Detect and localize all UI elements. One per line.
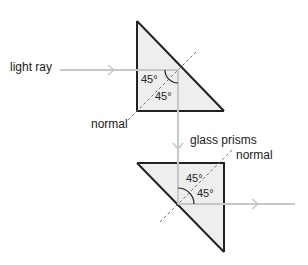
angle-label-top-reflection: 45° (155, 91, 172, 102)
normal-label-top: normal (91, 118, 128, 130)
periscope-diagram: light ray normal glass prisms normal 45°… (0, 0, 308, 265)
angle-label-bottom-incidence: 45° (186, 173, 203, 184)
glass-prism-top (137, 21, 224, 111)
normal-label-bottom: normal (236, 149, 273, 161)
glass-prism-bottom (137, 163, 224, 252)
glass-prisms-label: glass prisms (190, 134, 257, 146)
diagram-canvas (0, 0, 308, 265)
angle-label-bottom-reflection: 45° (197, 188, 214, 199)
light-ray-path (60, 70, 295, 204)
light-ray-label: light ray (10, 61, 52, 73)
angle-label-top-incidence: 45° (141, 74, 158, 85)
